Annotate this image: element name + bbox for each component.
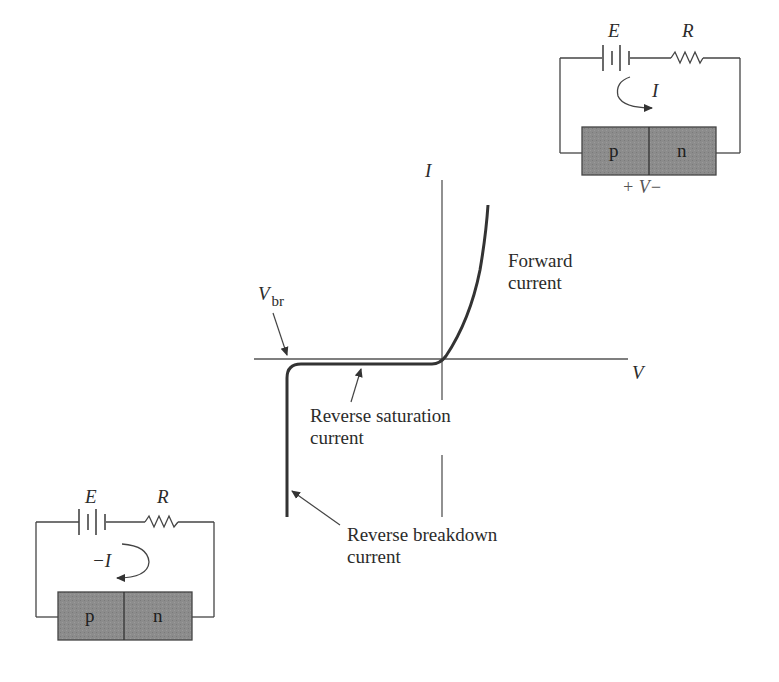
forward-resistor-label: R: [682, 20, 694, 42]
forward-battery-label: E: [608, 20, 620, 42]
saturation-label-line1: Reverse saturation: [310, 405, 451, 427]
resistor-icon: [671, 52, 703, 63]
vbr-label: Vbr: [258, 283, 284, 306]
battery-icon: [79, 509, 105, 535]
pn-junction: [58, 592, 192, 640]
vbr-subscript: br: [272, 293, 285, 309]
resistor-icon: [145, 516, 178, 527]
x-axis-label: V: [632, 362, 644, 384]
vbr-symbol: V: [258, 283, 270, 304]
iv-curve: [287, 205, 488, 517]
axes: [254, 180, 628, 517]
y-axis-label: I: [425, 160, 431, 182]
vbr-arrow: [273, 313, 287, 355]
forward-label-line2: current: [508, 272, 572, 294]
forward-voltage-label: + V−: [622, 176, 662, 198]
reverse-current-arrow-icon: [117, 544, 149, 578]
saturation-current-label: Reverse saturation current: [310, 405, 451, 449]
breakdown-arrow: [292, 491, 340, 525]
reverse-resistor-label: R: [157, 486, 169, 508]
diode-iv-diagram: [0, 0, 779, 682]
forward-current-symbol: I: [652, 80, 658, 102]
battery-icon: [603, 45, 629, 71]
forward-current-label: Forward current: [508, 250, 572, 294]
reverse-battery-label: E: [85, 486, 97, 508]
breakdown-current-label: Reverse breakdown current: [347, 524, 497, 568]
reverse-current-symbol: −I: [92, 550, 111, 572]
reverse-p-label: p: [85, 605, 95, 627]
breakdown-label-line2: current: [347, 546, 497, 568]
current-arrow-icon: [618, 77, 653, 108]
saturation-arrow: [351, 369, 361, 402]
reverse-n-label: n: [153, 605, 163, 627]
breakdown-label-line1: Reverse breakdown: [347, 524, 497, 546]
forward-p-label: p: [609, 140, 619, 162]
saturation-label-line2: current: [310, 427, 451, 449]
forward-n-label: n: [677, 140, 687, 162]
forward-label-line1: Forward: [508, 250, 572, 272]
